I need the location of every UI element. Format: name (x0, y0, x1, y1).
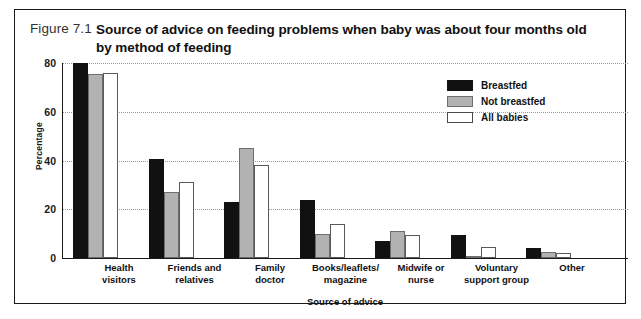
figure-title-row: Figure 7.1Source of advice on feeding pr… (30, 21, 610, 56)
bar-group (149, 63, 195, 258)
y-axis-tick-label: 80 (44, 57, 56, 69)
bar (315, 234, 330, 258)
figure-number: Figure 7.1 (30, 21, 96, 36)
bar-group (224, 63, 270, 258)
chart-legend: BreastfedNot breastfedAll babies (447, 76, 545, 124)
chart-plot-area: 020406080 HealthvisitorsFriends andrelat… (62, 63, 632, 258)
y-axis-line (62, 63, 63, 258)
bar (300, 200, 315, 259)
x-axis-category: Other (517, 262, 627, 274)
legend-label: Not breastfed (481, 96, 545, 107)
bar (330, 224, 345, 258)
x-axis-tick-label: support group (442, 274, 552, 286)
bar (466, 256, 481, 258)
bar (541, 252, 556, 258)
legend-swatch (447, 80, 473, 91)
y-axis-tick-label: 40 (44, 155, 56, 167)
bar (73, 63, 88, 258)
bar (103, 73, 118, 258)
bar-group (375, 63, 421, 258)
page-title: Source of advice on feeding problems whe… (96, 21, 596, 56)
bar (556, 253, 571, 258)
bar (179, 182, 194, 258)
bar-group (73, 63, 119, 258)
legend-label: Breastfed (481, 80, 527, 91)
bar (149, 159, 164, 258)
legend-item: All babies (447, 108, 545, 121)
legend-swatch (447, 96, 473, 107)
y-axis-tick-label: 20 (44, 203, 56, 215)
y-axis-tick-label: 60 (44, 106, 56, 118)
bar (526, 248, 541, 258)
bar (405, 235, 420, 258)
bar (164, 192, 179, 258)
legend-item: Not breastfed (447, 92, 545, 105)
bar (390, 231, 405, 258)
x-axis-tick-label: Other (517, 262, 627, 274)
bar (375, 241, 390, 258)
x-axis-label: Source of advice (62, 296, 628, 307)
y-axis-label: Percentage (34, 122, 44, 170)
legend-item: Breastfed (447, 76, 545, 89)
bar-group (300, 63, 346, 258)
figure-frame: Figure 7.1Source of advice on feeding pr… (14, 9, 626, 304)
legend-label: All babies (481, 112, 528, 123)
legend-swatch (447, 112, 473, 123)
bar (254, 165, 269, 258)
bar (481, 247, 496, 258)
bar (88, 74, 103, 258)
bar (224, 202, 239, 258)
x-axis-line (62, 258, 628, 259)
bar (451, 235, 466, 258)
bar (239, 148, 254, 258)
y-axis-tick-label: 0 (50, 252, 56, 264)
